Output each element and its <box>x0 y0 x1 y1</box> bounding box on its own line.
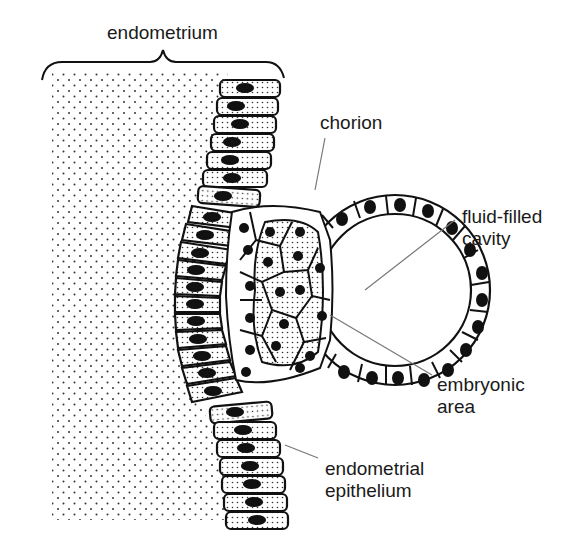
label-endometrium: endometrium <box>107 22 218 44</box>
label-endometrial-epithelium: endometrial epithelium <box>325 458 424 502</box>
label-embryonic-area: embryonic area <box>437 374 525 418</box>
implantation-diagram <box>0 0 582 547</box>
embryonic-cell-mass <box>226 206 333 382</box>
label-fluid-filled-cavity: fluid-filled cavity <box>462 206 542 250</box>
label-chorion: chorion <box>320 112 382 134</box>
